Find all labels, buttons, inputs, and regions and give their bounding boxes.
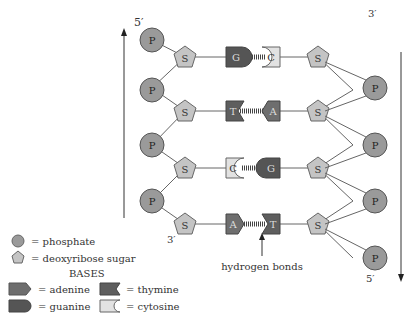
svg-text:A: A: [268, 106, 277, 117]
base-pair-g-c: G C: [226, 47, 280, 67]
legend-cytosine: = cytosine: [100, 300, 180, 312]
legend-bases-title: BASES: [69, 268, 105, 279]
svg-text:G: G: [267, 163, 275, 174]
svg-text:G: G: [232, 52, 240, 63]
right-phosphate-1: P: [363, 76, 387, 100]
right-sugar-1: S: [307, 46, 329, 67]
svg-text:S: S: [315, 220, 322, 231]
thymine-base: T: [226, 101, 244, 121]
svg-text:S: S: [182, 53, 189, 64]
svg-text:C: C: [229, 163, 237, 174]
legend-phosphate: = phosphate: [12, 235, 95, 247]
svg-text:S: S: [315, 107, 322, 118]
svg-text:= cytosine: = cytosine: [126, 301, 180, 312]
svg-text:S: S: [182, 107, 189, 118]
svg-text:S: S: [315, 164, 322, 175]
svg-text:P: P: [372, 253, 379, 264]
base-pair-a-t: A T: [226, 214, 280, 234]
left-phosphate-4: P: [140, 189, 164, 213]
svg-text:hydrogen bonds: hydrogen bonds: [221, 261, 303, 272]
svg-text:P: P: [372, 196, 379, 207]
guanine-base: G: [226, 47, 252, 67]
left-sugar-1: S: [174, 46, 196, 67]
left-sugar-3: S: [174, 157, 196, 178]
right-backbone-links: [325, 62, 366, 250]
dna-structure-diagram: 5′ 3′ 3′ 5′ P P: [0, 0, 409, 321]
left-strand-direction-arrow: [121, 28, 127, 218]
right-phosphate-4: P: [363, 246, 387, 270]
svg-text:S: S: [182, 220, 189, 231]
svg-text:P: P: [149, 196, 156, 207]
right-phosphate-3: P: [363, 189, 387, 213]
svg-text:C: C: [267, 52, 275, 63]
svg-text:= phosphate: = phosphate: [31, 236, 95, 247]
adenine-base: A: [226, 214, 244, 234]
svg-text:T: T: [270, 219, 277, 230]
svg-text:S: S: [315, 53, 322, 64]
legend-adenine: = adenine: [9, 283, 90, 295]
legend-guanine: = guanine: [9, 300, 90, 312]
left-phosphate-1: P: [140, 28, 164, 52]
right-5prime-label: 5′: [366, 273, 375, 284]
svg-text:S: S: [182, 164, 189, 175]
left-5prime-label: 5′: [134, 16, 144, 29]
svg-text:P: P: [149, 85, 156, 96]
left-phosphate-2: P: [140, 78, 164, 102]
guanine-base: G: [256, 158, 280, 178]
left-3prime-label: 3′: [167, 234, 176, 245]
svg-text:P: P: [149, 140, 156, 151]
right-phosphate-2: P: [363, 133, 387, 157]
svg-text:A: A: [228, 219, 237, 230]
legend: = phosphate = deoxyribose sugar BASES = …: [9, 235, 180, 312]
svg-text:P: P: [149, 35, 156, 46]
left-sugar-4: S: [174, 213, 196, 234]
svg-text:P: P: [372, 140, 379, 151]
legend-sugar: = deoxyribose sugar: [12, 251, 136, 264]
cytosine-base: C: [226, 158, 244, 178]
svg-text:P: P: [372, 83, 379, 94]
hydrogen-bonds-annotation: hydrogen bonds: [221, 233, 303, 272]
svg-text:= guanine: = guanine: [38, 301, 90, 312]
right-3prime-label: 3′: [368, 8, 377, 19]
right-strand-direction-arrow: [398, 52, 404, 282]
adenine-base: A: [262, 101, 280, 121]
left-phosphate-3: P: [140, 133, 164, 157]
svg-text:= adenine: = adenine: [38, 284, 90, 295]
base-pair-c-g: C G: [226, 158, 280, 178]
left-sugar-2: S: [174, 100, 196, 121]
svg-text:= thymine: = thymine: [126, 284, 179, 295]
base-pair-t-a: T A: [226, 101, 280, 121]
legend-thymine: = thymine: [100, 283, 179, 295]
svg-text:= deoxyribose sugar: = deoxyribose sugar: [31, 253, 136, 264]
svg-text:T: T: [230, 106, 237, 117]
